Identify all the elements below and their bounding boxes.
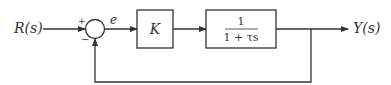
block-diagram: R(s) + − e K 1 1 + τs Y(s) <box>0 0 391 85</box>
plant-numerator: 1 <box>238 15 245 28</box>
input-label: R(s) <box>13 20 43 36</box>
minus-sign: − <box>81 34 89 45</box>
error-label: e <box>110 13 117 27</box>
plant-denominator: 1 + τs <box>224 31 259 44</box>
gain-block-label: K <box>149 21 162 37</box>
plus-sign: + <box>78 16 86 26</box>
feedback-path <box>95 29 311 82</box>
output-label: Y(s) <box>353 20 380 36</box>
